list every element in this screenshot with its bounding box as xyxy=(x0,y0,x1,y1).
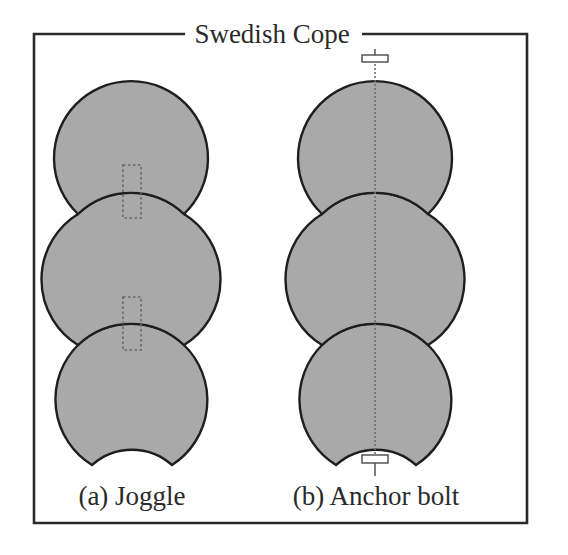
panel-anchor-bolt xyxy=(285,49,464,476)
caption-anchor-bolt: (b) Anchor bolt xyxy=(293,481,460,511)
anchor-bolt-bottom-washer xyxy=(362,455,388,476)
caption-joggle: (a) Joggle xyxy=(78,481,185,511)
swedish-cope-diagram: Swedish Cope (a) Joggle (b) xyxy=(0,0,568,555)
log-middle-a xyxy=(41,193,220,345)
anchor-bolt-top-washer xyxy=(362,49,388,62)
panel-joggle xyxy=(41,81,220,465)
figure-title: Swedish Cope xyxy=(194,19,349,49)
